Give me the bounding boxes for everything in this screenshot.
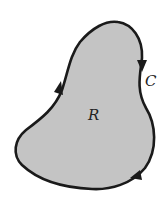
- curve-label: C: [145, 72, 156, 90]
- arrow-left-up: [54, 81, 63, 95]
- region-label: R: [88, 106, 99, 124]
- closed-curve-c: [16, 22, 155, 189]
- region-diagram: [0, 0, 166, 206]
